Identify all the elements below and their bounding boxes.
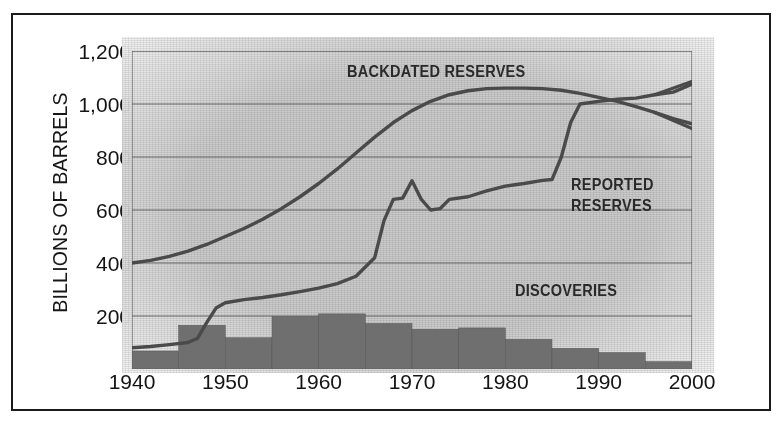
discoveries-bar (459, 328, 506, 369)
discoveries-bar (272, 317, 319, 369)
discoveries-bar (319, 314, 366, 369)
reported-reserves-label-line2: RESERVES (571, 196, 652, 215)
y-tick-label: 800 (57, 147, 131, 168)
discoveries-bar (132, 351, 179, 369)
y-tick-label: 200 (57, 306, 131, 327)
y-tick-label: 400 (57, 253, 131, 274)
y-tick-label: 600 (57, 200, 131, 221)
discoveries-bar (599, 353, 646, 369)
x-tick-label: 1970 (367, 370, 457, 394)
discoveries-bar (365, 323, 412, 369)
plot-area: BACKDATED RESERVESREPORTEDRESERVESDISCOV… (132, 51, 692, 369)
x-tick-label: 1940 (87, 370, 177, 394)
x-tick-label: 1950 (180, 370, 270, 394)
figure-frame: BILLIONS OF BARRELS 1,2001,0008006004002… (11, 13, 771, 411)
discoveries-bar (225, 338, 272, 369)
discoveries-bar (412, 329, 459, 369)
discoveries-bar (505, 339, 552, 369)
backdated-reserves-label: BACKDATED RESERVES (347, 62, 525, 81)
x-tick-label: 1980 (460, 370, 550, 394)
y-axis-tick-labels: 1,2001,000800600400200 (47, 15, 131, 413)
discoveries-label: DISCOVERIES (515, 281, 617, 300)
backdated-reserves-arrow-shaft (655, 112, 692, 139)
discoveries-bar (552, 348, 599, 369)
x-tick-label: 2000 (647, 370, 737, 394)
x-tick-label: 1960 (274, 370, 364, 394)
y-tick-label: 1,200 (57, 41, 131, 62)
backdated-reserves-arrow (655, 112, 692, 139)
y-tick-label: 1,000 (57, 94, 131, 115)
discoveries-bar (645, 362, 692, 369)
x-axis-tick-labels: 1940195019601970198019902000 (13, 370, 773, 410)
reported-reserves-line (132, 84, 692, 348)
discoveries-bar-group (132, 314, 692, 369)
reported-reserves-label-line1: REPORTED (571, 175, 654, 194)
x-tick-label: 1990 (554, 370, 644, 394)
